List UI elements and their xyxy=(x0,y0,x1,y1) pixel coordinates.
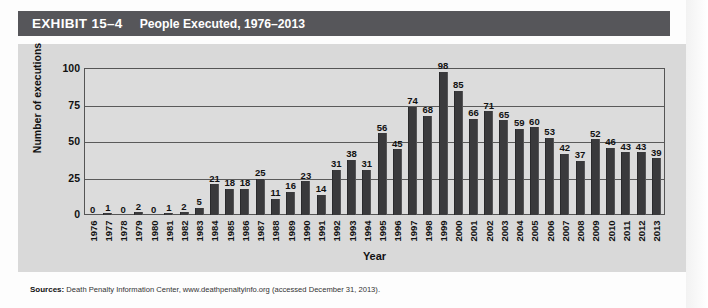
x-tick-label: 2005 xyxy=(529,220,540,241)
bar-value-label: 66 xyxy=(468,108,479,118)
bar-value-label: 18 xyxy=(224,178,235,188)
bar-group: 68 xyxy=(420,69,435,215)
x-tick-label: 1985 xyxy=(224,220,235,241)
y-tick-label: 0 xyxy=(46,208,80,220)
x-tick: 1991 xyxy=(314,217,329,250)
bar-value-label: 1 xyxy=(105,203,110,213)
x-tick: 2013 xyxy=(649,217,664,250)
bar-value-label: 2 xyxy=(136,202,141,212)
x-tick-label: 1996 xyxy=(392,220,403,241)
bar-value-label: 65 xyxy=(499,110,510,120)
bar xyxy=(362,170,371,215)
bar-group: 85 xyxy=(451,69,466,215)
exhibit-number: EXHIBIT 15–4 xyxy=(32,16,123,31)
bar-value-label: 74 xyxy=(407,96,418,106)
bar-group: 31 xyxy=(329,69,344,215)
bar xyxy=(180,212,189,215)
bar xyxy=(225,189,234,215)
x-tick-label: 1980 xyxy=(148,220,159,241)
x-tick: 1993 xyxy=(344,217,359,250)
bar-series: 0102012521181825111623143138315645746898… xyxy=(85,69,664,215)
bar-group: 1 xyxy=(161,69,176,215)
x-tick: 1979 xyxy=(131,217,146,250)
source-note: Sources: Death Penalty Information Cente… xyxy=(30,285,380,294)
bar-group: 23 xyxy=(298,69,313,215)
bar-value-label: 16 xyxy=(285,181,296,191)
x-tick: 2006 xyxy=(542,217,557,250)
bar xyxy=(286,192,295,215)
x-tick-label: 2007 xyxy=(559,220,570,241)
x-axis-ticks: 1976197719781979198019811982198319841985… xyxy=(85,217,664,250)
bar-group: 2 xyxy=(131,69,146,215)
x-tick: 2012 xyxy=(633,217,648,250)
x-tick-label: 2002 xyxy=(483,220,494,241)
bar-group: 18 xyxy=(237,69,252,215)
x-tick-label: 2013 xyxy=(651,220,662,241)
bar-value-label: 23 xyxy=(301,171,312,181)
x-tick: 2010 xyxy=(603,217,618,250)
x-tick: 1987 xyxy=(253,217,268,250)
bar-value-label: 56 xyxy=(377,123,388,133)
bar xyxy=(606,148,615,215)
x-tick: 2003 xyxy=(496,217,511,250)
bar-value-label: 37 xyxy=(575,150,586,160)
x-tick-label: 2004 xyxy=(514,220,525,241)
exhibit-title: People Executed, 1976–2013 xyxy=(140,17,305,31)
y-tick-label: 25 xyxy=(46,172,80,184)
x-tick: 1996 xyxy=(390,217,405,250)
bar-value-label: 0 xyxy=(90,205,95,215)
bar-value-label: 45 xyxy=(392,139,403,149)
bar xyxy=(378,133,387,215)
x-tick-label: 1977 xyxy=(102,220,113,241)
bar-group: 38 xyxy=(344,69,359,215)
bar xyxy=(515,129,524,215)
source-label: Sources: xyxy=(30,285,64,294)
x-tick-label: 1984 xyxy=(209,220,220,241)
x-tick-label: 2006 xyxy=(544,220,555,241)
x-tick: 2000 xyxy=(451,217,466,250)
bar xyxy=(408,107,417,215)
x-tick-label: 2000 xyxy=(453,220,464,241)
x-tick-label: 1994 xyxy=(361,220,372,241)
x-tick: 1994 xyxy=(359,217,374,250)
x-tick: 2002 xyxy=(481,217,496,250)
bar-value-label: 14 xyxy=(316,184,327,194)
bar xyxy=(560,154,569,215)
bar-group: 37 xyxy=(573,69,588,215)
x-tick: 2001 xyxy=(466,217,481,250)
bar xyxy=(545,138,554,215)
bar xyxy=(240,189,249,215)
bar-value-label: 1 xyxy=(166,203,171,213)
bar xyxy=(210,184,219,215)
source-text: Death Penalty Information Center, www.de… xyxy=(66,285,380,294)
x-tick: 1978 xyxy=(115,217,130,250)
bar xyxy=(637,152,646,215)
bar-value-label: 25 xyxy=(255,168,266,178)
x-tick: 1995 xyxy=(374,217,389,250)
x-tick: 1999 xyxy=(435,217,450,250)
bar-value-label: 53 xyxy=(544,127,555,137)
bar xyxy=(469,119,478,215)
bar-value-label: 59 xyxy=(514,118,525,128)
x-tick: 1977 xyxy=(100,217,115,250)
bar xyxy=(621,152,630,215)
bar-value-label: 31 xyxy=(362,159,373,169)
bar-value-label: 68 xyxy=(422,105,433,115)
bar-group: 11 xyxy=(268,69,283,215)
x-tick: 1990 xyxy=(298,217,313,250)
bar-group: 5 xyxy=(192,69,207,215)
bar xyxy=(347,160,356,215)
bar xyxy=(591,139,600,215)
x-tick-label: 1990 xyxy=(300,220,311,241)
x-tick-label: 1992 xyxy=(331,220,342,241)
bar-value-label: 39 xyxy=(651,148,662,158)
bar xyxy=(271,199,280,215)
x-tick-label: 1978 xyxy=(118,220,129,241)
x-tick: 1992 xyxy=(329,217,344,250)
bar-value-label: 5 xyxy=(197,197,202,207)
bar-value-label: 43 xyxy=(621,142,632,152)
x-tick-label: 1998 xyxy=(422,220,433,241)
bar xyxy=(134,212,143,215)
bar-value-label: 52 xyxy=(590,129,601,139)
x-tick: 1989 xyxy=(283,217,298,250)
